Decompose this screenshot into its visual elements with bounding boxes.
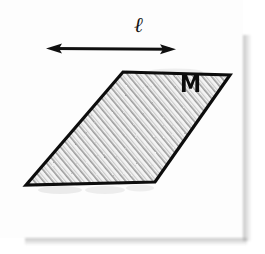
- diagram-canvas: [0, 0, 265, 254]
- length-dimension-arrow: [46, 44, 176, 55]
- region-label: M: [180, 73, 201, 96]
- arrow-shaft: [52, 49, 170, 50]
- figure-root: ℓ M: [0, 0, 265, 254]
- length-label: ℓ: [134, 15, 143, 36]
